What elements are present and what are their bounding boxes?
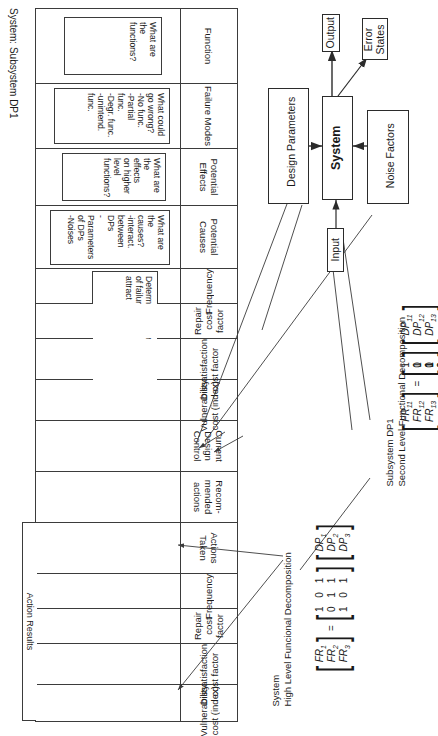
- node-system[interactable]: System: [322, 96, 353, 200]
- node-design-parameters[interactable]: Design Parameters ∶ ∶: [268, 88, 309, 204]
- node-input-label: Input: [330, 238, 342, 261]
- arrow-system-to-error-states: [338, 58, 367, 96]
- arrowhead-causes-b: [214, 436, 243, 452]
- node-output-label: Output: [325, 17, 337, 49]
- matrix-lhs: FR11FR12FR13: [400, 400, 436, 423]
- arrowhead-causes-a: [199, 432, 225, 448]
- diagram-canvas: System: Subsystem DP1 Action Results Fun…: [0, 0, 438, 736]
- node-output[interactable]: Output: [322, 14, 340, 52]
- node-error-states-label: Error States: [364, 24, 387, 54]
- matrix-equals: =: [326, 623, 338, 633]
- node-input[interactable]: Input: [327, 228, 344, 272]
- decomposition-subsystem-dp1: Subsystem DP1 Second Level Functional De…: [352, 250, 438, 480]
- matrix-coefficients: 1 0 10 1 11 0 1: [314, 575, 350, 612]
- link-causes-to-design-parameters: [196, 196, 290, 444]
- matrix-equals: =: [412, 379, 424, 389]
- node-system-label: System: [332, 126, 344, 170]
- matrix-coefficients: 1 0 01 1 01 0 1: [400, 359, 436, 368]
- decomposition-matrix-0: [FR1FR2FR3]=[1 0 10 1 11 0 1][DP1DP2DP3]: [314, 522, 350, 675]
- node-error-states[interactable]: Error States: [362, 18, 388, 60]
- matrix-lhs: FR1FR2FR3: [314, 644, 350, 663]
- link-table-to-system: [262, 205, 302, 330]
- node-noise-factors-label: Noise Factors: [385, 116, 397, 196]
- decomposition-caption-0: System High Level Funcional Decompositio…: [270, 497, 293, 707]
- link-causes-to-noise-factors: [205, 215, 372, 441]
- decomposition-system-high-level: System High Level Funcional Decompositio…: [262, 470, 422, 720]
- matrix-rhs: DP11DP12DP13: [400, 313, 436, 337]
- matrix-rhs: DP1DP2DP3: [314, 533, 350, 553]
- node-noise-factors[interactable]: Noise Factors ∶ ∶ ∶: [367, 110, 409, 204]
- node-design-parameters-label: Design Parameters: [286, 91, 298, 193]
- decomposition-matrix-1: [FR11FR12FR13]=[1 0 01 1 01 0 1][DP11DP1…: [400, 302, 436, 434]
